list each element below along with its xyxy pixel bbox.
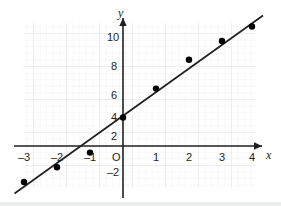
data-point bbox=[219, 38, 225, 44]
x-tick-label-neg3: –3 bbox=[18, 152, 30, 163]
y-axis-name: y bbox=[118, 7, 123, 19]
y-tick-label-10: 10 bbox=[107, 32, 119, 43]
x-axis-name: x bbox=[266, 149, 271, 161]
y-tick-label-8: 8 bbox=[111, 61, 117, 72]
x-tick-label-neg1: –1 bbox=[84, 152, 96, 163]
y-tick-label-6: 6 bbox=[111, 90, 117, 101]
x-tick-label-1: 1 bbox=[153, 152, 159, 163]
data-point bbox=[153, 85, 159, 91]
bottom-divider bbox=[0, 202, 281, 206]
data-point bbox=[120, 114, 126, 120]
origin-label: O bbox=[112, 152, 121, 163]
coordinate-graph-figure: –3 –2 –1 1 2 3 4 O 10 8 6 4 2 –2 y x bbox=[0, 0, 281, 206]
y-tick-label-neg2: –2 bbox=[107, 167, 119, 178]
x-tick-label-2: 2 bbox=[186, 152, 192, 163]
data-point bbox=[54, 164, 60, 170]
x-tick-label-4: 4 bbox=[249, 152, 255, 163]
y-tick-label-4: 4 bbox=[111, 112, 117, 123]
data-point bbox=[186, 57, 192, 63]
y-tick-label-2: 2 bbox=[111, 131, 117, 142]
x-tick-label-3: 3 bbox=[219, 152, 225, 163]
data-point bbox=[249, 23, 255, 29]
x-tick-label-neg2: –2 bbox=[51, 152, 63, 163]
data-point bbox=[21, 179, 27, 185]
plot-area bbox=[0, 0, 281, 206]
